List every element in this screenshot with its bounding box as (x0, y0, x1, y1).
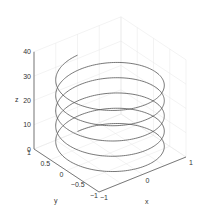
z-tick-label: 10 (23, 121, 31, 128)
y-axis-label: y (54, 197, 58, 205)
y-tick-label: −0.5 (71, 181, 85, 188)
z-tick-label: 30 (23, 73, 31, 80)
y-axis-line (34, 149, 99, 192)
x-axis-label: x (145, 198, 149, 205)
y-tick-label: 0.5 (40, 160, 50, 167)
y-tick-label: 0 (60, 171, 64, 178)
x-tick-label: −1 (100, 194, 108, 201)
x-axis-line (99, 157, 186, 192)
z-tick-label: 40 (23, 48, 31, 55)
z-axis-label: z (15, 96, 19, 103)
z-tick-label: 20 (23, 97, 31, 104)
helix-line (56, 55, 165, 171)
y-tick-label: 1 (27, 149, 31, 156)
y-tick-label: −1 (90, 192, 98, 199)
x-tick-label: 0 (146, 177, 150, 184)
tick-labels: 01020304010.50−0.5−1−101 (23, 48, 193, 201)
helix-3d-plot: 01020304010.50−0.5−1−101 z y x (0, 0, 204, 214)
x-tick-label: 1 (189, 159, 193, 166)
grid-line (83, 146, 170, 181)
